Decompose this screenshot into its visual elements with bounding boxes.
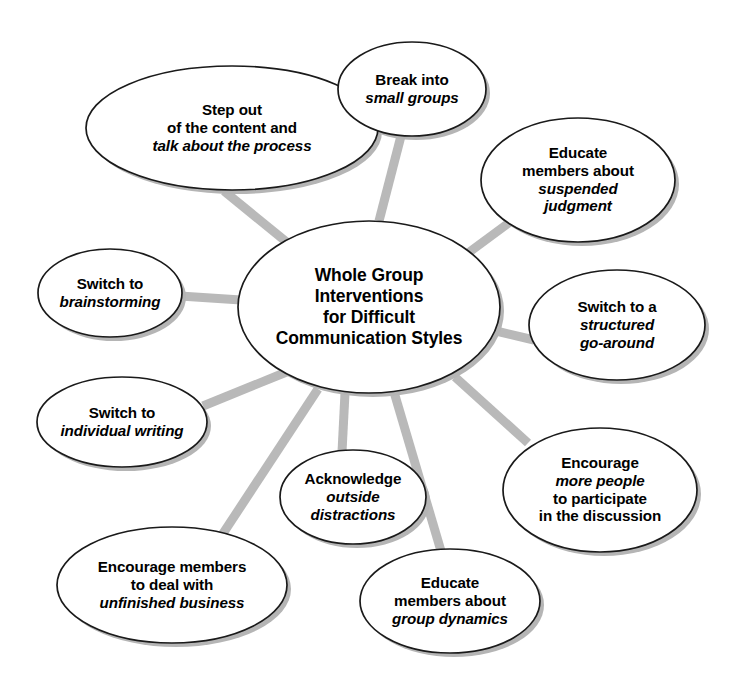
diagram-canvas: Whole GroupInterventionsfor DifficultCom… <box>0 0 730 687</box>
node-shape-brainstorming[interactable] <box>38 249 182 337</box>
node-shape-group-dynamics[interactable] <box>360 549 540 653</box>
node-shapes <box>37 42 709 657</box>
spoke-more-people-participate <box>455 377 528 443</box>
node-shape-unfinished-business[interactable] <box>57 527 287 643</box>
center-node-shape[interactable] <box>238 221 500 393</box>
spoke-individual-writing <box>203 371 289 406</box>
diagram-graphics <box>0 0 730 687</box>
node-shape-structured-go-around[interactable] <box>529 270 705 380</box>
node-shape-break-into-small-groups[interactable] <box>338 42 486 136</box>
node-shape-step-out[interactable] <box>86 66 378 190</box>
node-shape-outside-distractions[interactable] <box>280 450 426 544</box>
spoke-brainstorming <box>180 296 241 300</box>
spoke-suspended-judgment <box>468 222 510 253</box>
spoke-break-into-small-groups <box>379 136 401 221</box>
node-shape-individual-writing[interactable] <box>37 377 207 467</box>
node-shape-suspended-judgment[interactable] <box>481 118 675 242</box>
node-shape-more-people-participate[interactable] <box>503 428 697 552</box>
spoke-step-out <box>224 191 289 244</box>
spoke-outside-distractions <box>342 393 345 452</box>
